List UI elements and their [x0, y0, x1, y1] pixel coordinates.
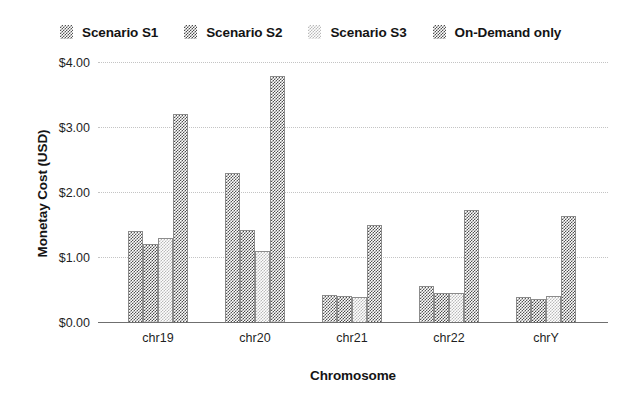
legend-label: On-Demand only — [455, 25, 562, 40]
legend-label: Scenario S1 — [82, 25, 158, 40]
x-axis-tick-label: chrY — [501, 331, 591, 345]
x-axis-tick-label: chr19 — [113, 331, 203, 345]
x-axis-tick-label: chr22 — [404, 331, 494, 345]
bar-group-chr20: chr20 — [225, 62, 285, 322]
y-axis-tick-label: $4.00 — [59, 56, 90, 70]
chart-legend: Scenario S1Scenario S2Scenario S3On-Dema… — [60, 20, 580, 44]
legend-label: Scenario S3 — [330, 25, 406, 40]
bar-group-chr21: chr21 — [322, 62, 382, 322]
bar-chrY-series-1 — [516, 297, 531, 322]
bar-chr22-series-4 — [464, 210, 479, 322]
bar-chart-figure: Scenario S1Scenario S2Scenario S3On-Dema… — [0, 0, 638, 401]
legend-swatch-icon — [184, 25, 197, 39]
bar-chr21-series-2 — [337, 296, 352, 322]
y-axis-tick-label: $0.00 — [59, 316, 90, 330]
bar-chr20-series-2 — [240, 230, 255, 322]
bar-chr22-series-2 — [434, 293, 449, 322]
bar-chr19-series-3 — [158, 238, 173, 323]
bar-chr19-series-1 — [128, 231, 143, 322]
y-axis-tick-label: $3.00 — [59, 121, 90, 135]
bar-chr19-series-4 — [173, 114, 188, 322]
x-axis-tick-label: chr21 — [307, 331, 397, 345]
bar-chr20-series-3 — [255, 251, 270, 323]
x-axis-title: Chromosome — [98, 368, 608, 383]
legend-swatch-icon — [60, 25, 73, 39]
legend-item-3: Scenario S3 — [308, 25, 406, 40]
y-axis-title: Monetay Cost (USD) — [35, 89, 50, 299]
bar-chr21-series-3 — [352, 297, 367, 322]
x-axis-tick-label: chr20 — [210, 331, 300, 345]
legend-swatch-icon — [308, 25, 321, 39]
y-axis-tick-label: $1.00 — [59, 251, 90, 265]
bar-chr21-series-1 — [322, 295, 337, 322]
bar-group-chr19: chr19 — [128, 62, 188, 322]
bar-group-chr22: chr22 — [419, 62, 479, 322]
legend-item-1: Scenario S1 — [60, 25, 158, 40]
bar-chrY-series-3 — [546, 296, 561, 322]
bar-chr21-series-4 — [367, 225, 382, 323]
bar-chr20-series-4 — [270, 76, 285, 322]
legend-item-4: On-Demand only — [433, 25, 562, 40]
x-axis-line: $0.00 — [98, 322, 608, 323]
bar-chr22-series-1 — [419, 286, 434, 322]
bar-chrY-series-2 — [531, 299, 546, 322]
plot-area: $0.00$1.00$2.00$3.00$4.00 chr19chr20chr2… — [98, 62, 608, 322]
bar-chr19-series-2 — [143, 244, 158, 322]
y-axis-tick-label: $2.00 — [59, 186, 90, 200]
legend-label: Scenario S2 — [206, 25, 282, 40]
bar-chr22-series-3 — [449, 293, 464, 322]
bar-chr20-series-1 — [225, 173, 240, 323]
bar-series-container: chr19chr20chr21chr22chrY — [98, 62, 608, 322]
bar-chrY-series-4 — [561, 216, 576, 322]
bar-group-chrY: chrY — [516, 62, 576, 322]
legend-item-2: Scenario S2 — [184, 25, 282, 40]
legend-swatch-icon — [433, 25, 446, 39]
